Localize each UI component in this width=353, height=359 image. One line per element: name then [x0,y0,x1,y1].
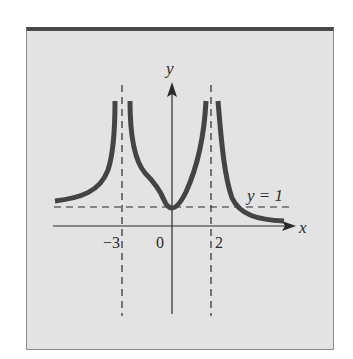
y-axis-label: y [164,59,174,78]
function-graph: y x y = 1 −3 0 2 [0,0,353,359]
tick-label-0: 0 [156,234,164,251]
asymptote-label: y = 1 [245,186,283,205]
asymptote-label-text: y = 1 [245,186,283,205]
curve-middle-branch [130,101,206,208]
tick-label-neg3: −3 [103,234,120,251]
curve-left-branch [55,101,115,201]
tick-label-2: 2 [215,234,223,251]
x-axis-label: x [298,218,307,237]
